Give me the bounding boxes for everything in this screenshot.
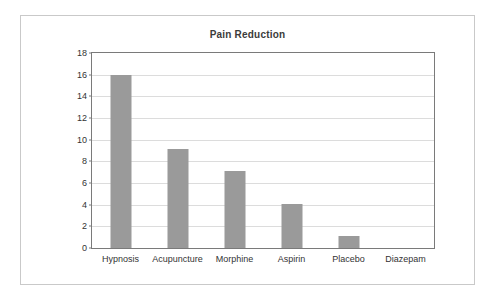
y-axis-tick-label: 8 <box>82 156 87 166</box>
x-axis-tick-label: Diazepam <box>385 254 426 264</box>
x-axis-tick-label: Aspirin <box>278 254 306 264</box>
chart-frame: Pain Reduction 024681012141618 HypnosisA… <box>20 15 475 285</box>
plot-area: 024681012141618 HypnosisAcupunctureMorph… <box>91 52 435 249</box>
y-axis-tick-label: 12 <box>77 113 87 123</box>
y-axis-tick-label: 0 <box>82 243 87 253</box>
x-axis-tick-label: Morphine <box>216 254 254 264</box>
x-axis-tick-label: Placebo <box>332 254 365 264</box>
x-label-slot: Diazepam <box>377 53 434 248</box>
x-label-slot: Morphine <box>206 53 263 248</box>
y-axis-tick-label: 14 <box>77 91 87 101</box>
x-label-slot: Aspirin <box>263 53 320 248</box>
chart-title: Pain Reduction <box>21 29 474 40</box>
x-label-slot: Placebo <box>320 53 377 248</box>
y-axis-tick-label: 6 <box>82 178 87 188</box>
y-axis-tick-label: 16 <box>77 70 87 80</box>
y-axis-tick-label: 10 <box>77 135 87 145</box>
y-axis-tick-label: 4 <box>82 200 87 210</box>
y-axis-tick-label: 18 <box>77 48 87 58</box>
x-label-slot: Hypnosis <box>92 53 149 248</box>
x-axis-tick-label: Acupuncture <box>152 254 203 264</box>
x-label-slot: Acupuncture <box>149 53 206 248</box>
y-axis-tick-label: 2 <box>82 221 87 231</box>
x-axis-tick-label: Hypnosis <box>102 254 139 264</box>
